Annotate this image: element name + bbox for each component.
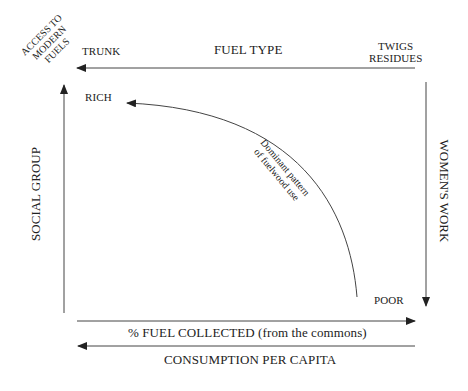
- rich-label: RICH: [85, 91, 112, 103]
- trunk-label: TRUNK: [82, 45, 120, 57]
- womens-work-title: WOMEN'S WORK: [436, 140, 452, 243]
- dominant-pattern-curve: [127, 103, 357, 297]
- twigs-label: TWIGS: [369, 40, 422, 52]
- twigs-residues-label: TWIGS RESIDUES: [369, 40, 422, 64]
- residues-label: RESIDUES: [369, 52, 422, 64]
- consumption-title: CONSUMPTION PER CAPITA: [164, 352, 336, 368]
- social-group-title: SOCIAL GROUP: [28, 147, 44, 241]
- poor-label: POOR: [374, 294, 404, 306]
- fuel-collected-title: % FUEL COLLECTED (from the commons): [128, 325, 367, 341]
- fuel-type-title: FUEL TYPE: [214, 42, 282, 58]
- corner-label: ACCESS TO MODERN FUELS: [14, 8, 84, 68]
